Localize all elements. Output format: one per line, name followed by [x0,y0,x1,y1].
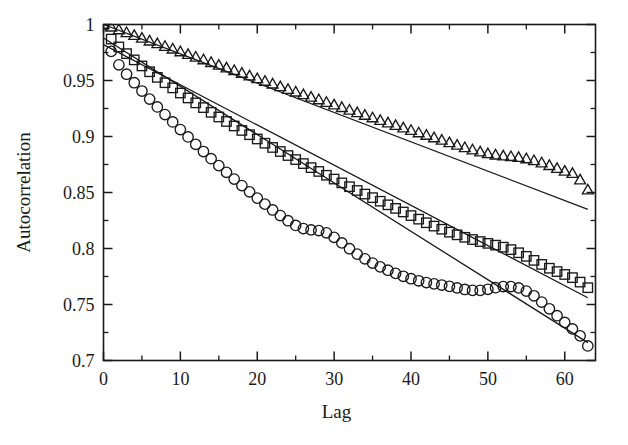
x-tick-label: 40 [402,369,420,389]
circle-series [98,19,593,351]
square-series [99,20,593,298]
y-tick-label: 0.8 [72,239,95,259]
y-axis-title: Autocorrelation [13,132,34,253]
y-tick-label: 0.9 [72,127,95,147]
x-axis-title: Lag [322,401,352,422]
circle-marker [283,216,293,226]
triangle-series [98,19,593,210]
circle-marker [137,86,147,96]
y-tick-label: 0.7 [72,351,95,371]
y-tick-label: 1 [86,15,95,35]
circle-marker [329,232,339,242]
x-tick-label: 10 [171,369,189,389]
x-tick-label: 30 [325,369,343,389]
y-tick-label: 0.75 [63,295,95,315]
circle-marker [121,69,131,79]
x-tick-label: 50 [479,369,497,389]
x-tick-label: 20 [248,369,266,389]
autocorrelation-chart-figure: 01020304050600.70.750.80.850.90.951LagAu… [0,0,628,445]
circle-marker [129,78,139,88]
circle-marker [352,249,362,259]
y-tick-label: 0.85 [63,183,95,203]
circle-series-fit-line [104,38,588,343]
x-tick-label: 60 [556,369,574,389]
y-tick-label: 0.95 [63,71,95,91]
circle-marker [267,205,277,215]
circle-marker [413,276,423,286]
circle-marker [275,210,285,220]
x-tick-label: 0 [99,369,108,389]
autocorrelation-plot: 01020304050600.70.750.80.850.90.951LagAu… [0,0,628,445]
circle-marker [344,244,354,254]
circle-marker [114,60,124,70]
